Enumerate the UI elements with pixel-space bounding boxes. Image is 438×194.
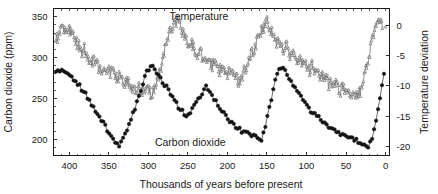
x-axis-title: Thousands of years before present	[140, 178, 303, 190]
data-point-temperature	[273, 33, 276, 36]
data-point-temperature	[175, 25, 178, 28]
x-tick-label: 300	[140, 160, 156, 171]
data-point-co2	[232, 122, 236, 126]
data-point-co2	[200, 93, 204, 97]
data-point-co2	[366, 146, 370, 150]
x-tick-label: 250	[180, 160, 196, 171]
data-point-co2	[289, 79, 293, 83]
data-point-temperature	[373, 29, 376, 32]
data-point-temperature	[196, 57, 199, 60]
x-tick-label: 350	[101, 160, 117, 171]
annotation-carbon-dioxide: Carbon dioxide	[155, 136, 226, 148]
data-point-temperature	[190, 38, 193, 41]
data-point-temperature	[109, 76, 112, 79]
data-point-co2	[84, 91, 88, 95]
data-point-temperature	[225, 70, 228, 73]
data-point-co2	[380, 83, 384, 87]
data-point-co2	[355, 137, 359, 141]
data-point-temperature	[105, 72, 108, 75]
data-point-co2	[376, 107, 380, 111]
data-point-co2	[74, 79, 78, 83]
data-point-co2	[382, 72, 386, 76]
y-right-tick-label: -5	[397, 50, 405, 61]
data-point-temperature	[137, 81, 140, 84]
data-point-co2	[283, 68, 287, 72]
data-point-temperature	[99, 64, 102, 67]
x-tick-label: 50	[341, 160, 352, 171]
data-point-temperature	[186, 42, 189, 45]
y-right-tick-label: -10	[397, 80, 411, 91]
data-point-co2	[129, 118, 133, 122]
data-point-co2	[133, 108, 137, 112]
data-point-temperature	[262, 31, 265, 34]
data-point-co2	[171, 95, 175, 99]
data-point-temperature	[270, 26, 273, 29]
x-tick-label: 200	[219, 160, 235, 171]
data-point-co2	[98, 115, 102, 119]
y-axis-right-title: Temperature deviation	[418, 30, 430, 134]
data-point-co2	[115, 142, 119, 146]
data-point-temperature	[242, 69, 245, 72]
data-point-temperature	[364, 70, 367, 73]
y-right-tick-label: -15	[397, 111, 411, 122]
data-point-co2	[127, 122, 131, 126]
data-point-co2	[307, 106, 311, 110]
data-point-temperature	[288, 58, 291, 61]
data-point-co2	[117, 145, 121, 149]
data-point-co2	[88, 98, 92, 102]
data-point-temperature	[81, 55, 84, 58]
data-point-temperature	[155, 83, 158, 86]
data-point-temperature	[181, 35, 184, 38]
data-point-temperature	[179, 27, 182, 30]
data-point-temperature	[304, 59, 307, 62]
data-point-co2	[270, 98, 274, 102]
data-point-temperature	[361, 83, 364, 86]
data-point-temperature	[77, 39, 80, 42]
data-point-temperature	[381, 27, 384, 30]
data-point-temperature	[219, 63, 222, 66]
data-point-temperature	[301, 58, 304, 61]
data-point-co2	[143, 74, 147, 78]
data-point-co2	[153, 67, 157, 71]
data-point-temperature	[151, 95, 154, 98]
data-point-temperature	[299, 54, 302, 57]
y-axis-left-title: Carbon dioxide (ppm)	[2, 32, 14, 133]
data-point-temperature	[266, 15, 269, 18]
data-point-co2	[317, 114, 321, 118]
data-point-co2	[378, 97, 382, 101]
data-point-co2	[181, 108, 185, 112]
data-point-temperature	[327, 88, 330, 91]
data-point-temperature	[241, 78, 244, 81]
data-point-temperature	[92, 54, 95, 57]
data-point-temperature	[160, 62, 163, 65]
data-point-co2	[266, 114, 270, 118]
data-point-co2	[260, 139, 264, 143]
data-point-temperature	[359, 95, 362, 98]
data-point-temperature	[68, 24, 71, 27]
x-tick-label: 400	[61, 160, 77, 171]
data-point-temperature	[118, 70, 121, 73]
data-point-temperature	[253, 51, 256, 54]
data-point-co2	[325, 123, 329, 127]
data-point-co2	[147, 69, 151, 73]
data-point-co2	[70, 75, 74, 79]
data-point-temperature	[311, 59, 314, 62]
data-point-co2	[210, 93, 214, 97]
data-point-co2	[139, 89, 143, 93]
y-right-tick-label: 0	[397, 20, 402, 31]
vostok-ice-core-figure: 400350300250200150100500 350300250200 0-…	[0, 0, 438, 194]
data-point-temperature	[182, 27, 185, 30]
data-point-temperature	[277, 36, 280, 39]
data-point-temperature	[192, 41, 195, 44]
data-point-temperature	[218, 74, 221, 77]
data-point-temperature	[285, 40, 288, 43]
data-point-co2	[372, 127, 376, 131]
data-point-co2	[104, 123, 108, 127]
data-point-co2	[121, 136, 125, 140]
data-point-temperature	[321, 70, 324, 73]
y-left-tick-label: 250	[32, 93, 48, 104]
data-point-temperature	[107, 65, 110, 68]
x-tick-label: 150	[259, 160, 275, 171]
data-point-co2	[370, 137, 374, 141]
y-left-tick-label: 300	[32, 52, 48, 63]
